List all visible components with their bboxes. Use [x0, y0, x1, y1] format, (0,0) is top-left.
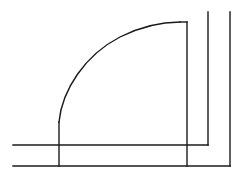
door-swing-arc: [59, 22, 180, 122]
door-floor-plan-diagram: [0, 0, 240, 174]
